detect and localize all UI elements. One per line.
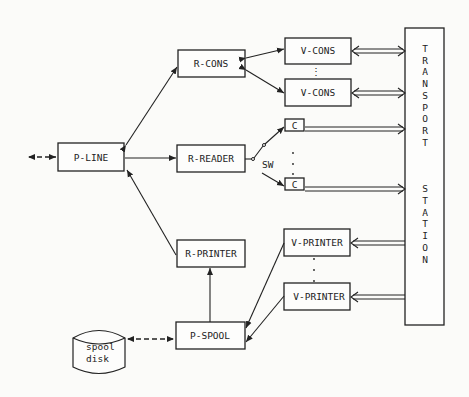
r-cons-node: R-CONS — [178, 50, 245, 77]
switch-label: SW — [262, 159, 274, 170]
spool-disk-label-1: spool — [86, 341, 115, 352]
v-printer-1-p-spool-arrow — [246, 243, 284, 328]
transport-station-letter: N — [422, 78, 428, 89]
transport-station-letter: N — [422, 254, 428, 265]
spool-disk-label-2: disk — [86, 353, 109, 364]
v-cons-1-transport-link — [352, 46, 405, 56]
v-printer-label-1: V-PRINTER — [291, 237, 343, 248]
v-printer-2-p-spool-arrow — [246, 296, 284, 342]
c-label-1: C — [292, 120, 298, 131]
transport-station-letter: T — [422, 195, 428, 206]
v-cons-label-1: V-CONS — [301, 45, 336, 56]
p-line-node: P-LINE — [58, 143, 124, 171]
r-cons-v-cons-2-arrow — [246, 70, 284, 93]
v-printer-node-2: V-PRINTER — [284, 283, 350, 310]
r-printer-node: R-PRINTER — [177, 240, 245, 267]
switch: SW — [245, 127, 284, 186]
r-cons-label: R-CONS — [194, 58, 229, 69]
transport-station-letter: P — [422, 102, 428, 113]
p-spool-node: P-SPOOL — [176, 322, 245, 349]
r-reader-label: R-READER — [188, 153, 234, 164]
r-reader-node: R-READER — [177, 145, 245, 172]
c-label-2: C — [292, 179, 298, 190]
c-1-transport-link — [305, 124, 405, 134]
transport-station: TRANSPORTSTATION — [405, 28, 444, 325]
v-cons-node-2: V-CONS — [285, 79, 351, 106]
transport-station-letter: T — [422, 43, 428, 54]
v-printer-ellipsis — [313, 258, 315, 282]
c-node-2: C — [285, 178, 304, 190]
c-node-1: C — [285, 119, 304, 131]
p-line-label: P-LINE — [74, 152, 109, 163]
v-cons-ellipsis: ⋮ — [311, 66, 321, 77]
r-printer-p-line-arrow — [127, 170, 176, 255]
spool-disk: spool disk — [73, 331, 125, 374]
v-cons-node-1: V-CONS — [285, 38, 351, 64]
v-printer-label-2: V-PRINTER — [293, 291, 345, 302]
transport-station-letter: A — [422, 66, 428, 77]
r-cons-v-cons-1-arrow — [246, 49, 284, 58]
v-cons-label-2: V-CONS — [301, 87, 336, 98]
p-line-r-cons-arrow — [126, 67, 177, 145]
transport-v-printer-1-link — [351, 238, 405, 248]
transport-station-letter: S — [422, 90, 428, 101]
transport-station-letter: O — [422, 113, 428, 124]
transport-station-letter: T — [422, 218, 428, 229]
transport-station-letter: R — [422, 55, 428, 66]
transport-station-letter: I — [422, 230, 428, 241]
v-cons-2-transport-link — [352, 88, 405, 98]
transport-station-letter: T — [422, 137, 428, 148]
p-spool-label: P-SPOOL — [190, 330, 230, 341]
v-printer-node-1: V-PRINTER — [284, 229, 350, 256]
transport-station-letter: R — [422, 125, 428, 136]
transport-station-letter: O — [422, 242, 428, 253]
transport-v-printer-2-link — [351, 292, 405, 302]
c-ellipsis — [292, 152, 294, 175]
system-diagram: P-LINE R-CONS R-READER R-PRINTER P-SPOOL… — [0, 0, 469, 397]
r-printer-label: R-PRINTER — [185, 248, 237, 259]
transport-station-letter: S — [422, 183, 428, 194]
transport-station-letter: A — [422, 207, 428, 218]
c-2-transport-link — [305, 184, 405, 194]
